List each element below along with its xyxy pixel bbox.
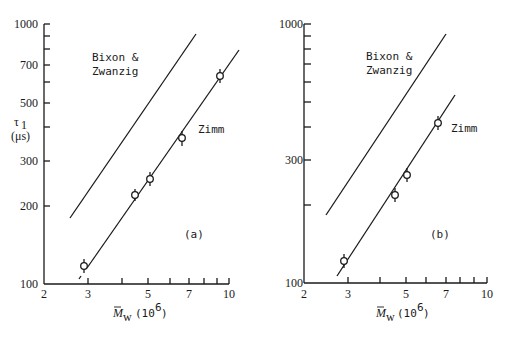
ytick-a-100: 100 <box>20 277 38 291</box>
figure: 1000 700 500 300 200 100 τ 1 (μs) 2 3 5 … <box>0 0 508 339</box>
svg-text:(10: (10 <box>397 307 417 320</box>
svg-text:(10: (10 <box>135 307 155 320</box>
panel-a <box>44 24 239 284</box>
panel-label-a: (a) <box>184 228 204 241</box>
xtick-a-5: 5 <box>145 287 151 301</box>
svg-text:w: w <box>386 310 395 324</box>
ytick-a-1000: 1000 <box>14 17 38 31</box>
ytick-a-300: 300 <box>20 154 38 168</box>
xtick-a-2: 2 <box>41 287 47 301</box>
bixon-label-b-2: Zwanzig <box>366 64 412 77</box>
ytick-a-200: 200 <box>20 199 38 213</box>
ytick-b-1000: 1000 <box>279 17 303 31</box>
panel-label-b: (b) <box>430 228 450 241</box>
xtick-b-2: 2 <box>301 287 307 301</box>
xlabel-a: M w (10 6 ) <box>112 301 168 324</box>
zimm-label-a: Zimm <box>198 123 225 136</box>
xtick-b-3: 3 <box>345 287 351 301</box>
svg-text:): ) <box>161 307 168 320</box>
xtick-a-3: 3 <box>85 287 91 301</box>
xtick-b-5: 5 <box>403 287 409 301</box>
zimm-label-b: Zimm <box>451 122 478 135</box>
xlabel-b: M w (10 6 ) <box>375 301 430 324</box>
ytick-a-700: 700 <box>20 58 38 72</box>
bixon-label-b-1: Bixon & <box>366 50 413 63</box>
xtick-a-7: 7 <box>186 287 192 301</box>
bixon-label-a-1: Bixon & <box>92 51 139 64</box>
ytick-a-500: 500 <box>20 96 38 110</box>
ylabel-unit: (μs) <box>11 129 30 143</box>
xtick-a-10: 10 <box>223 287 235 301</box>
xtick-b-7: 7 <box>443 287 449 301</box>
xtick-b-10: 10 <box>481 287 493 301</box>
svg-text:w: w <box>123 310 132 324</box>
panel-b-labels: 1000 300 100 2 3 5 7 10 M w (10 6 ) Bixo… <box>279 17 493 324</box>
svg-text:): ) <box>423 307 430 320</box>
ytick-b-300: 300 <box>285 153 303 167</box>
ylabel-tau: τ <box>14 115 19 129</box>
bixon-label-a-2: Zwanzig <box>92 65 138 78</box>
